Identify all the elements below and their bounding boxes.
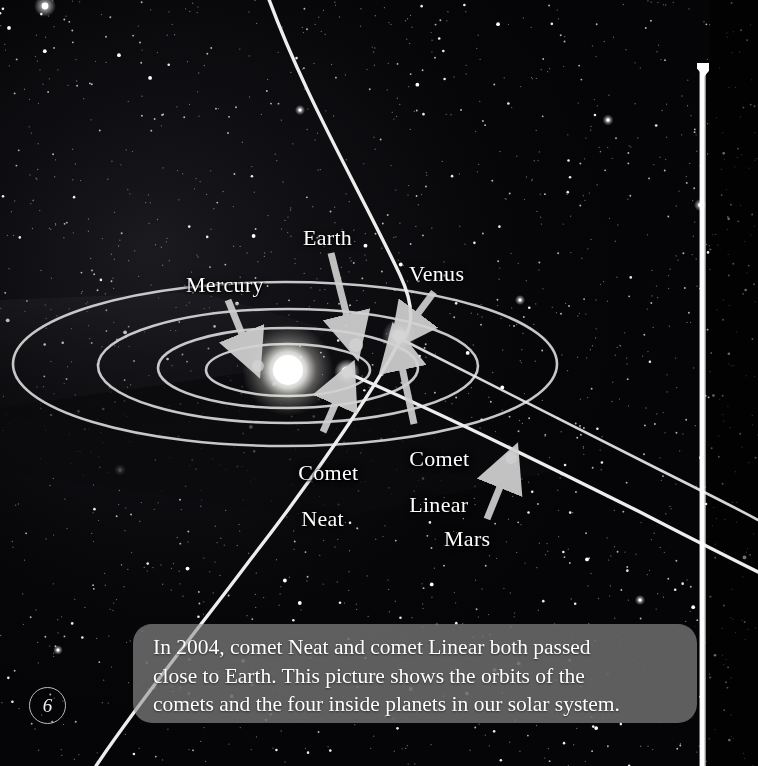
label-comet-linear-line1: Comet bbox=[409, 446, 469, 471]
scan-artifact-strip bbox=[699, 63, 706, 766]
label-comet-linear-line2: Linear bbox=[409, 492, 468, 517]
comet-orbit-upper bbox=[262, 0, 411, 342]
label-comet-linear: Comet Linear bbox=[386, 424, 466, 539]
arrow-earth bbox=[331, 253, 352, 336]
page-number: 6 bbox=[29, 687, 66, 724]
label-mercury: Mercury bbox=[186, 273, 264, 296]
label-comet-neat-line2: Neat bbox=[301, 506, 344, 531]
label-comet-neat-line1: Comet bbox=[298, 460, 358, 485]
planet-mars bbox=[505, 452, 517, 464]
caption-line-2: close to Earth. This picture shows the o… bbox=[153, 662, 679, 691]
planet-venus bbox=[393, 330, 405, 342]
caption-line-1: In 2004, comet Neat and comet Linear bot… bbox=[153, 633, 679, 662]
comet-neat bbox=[342, 367, 353, 378]
caption-box: In 2004, comet Neat and comet Linear bot… bbox=[133, 624, 697, 723]
caption-line-3: comets and the four inside planets in ou… bbox=[153, 690, 679, 719]
label-venus: Venus bbox=[409, 262, 464, 285]
label-earth: Earth bbox=[303, 226, 352, 249]
planet-mercury bbox=[252, 360, 264, 372]
label-comet-neat: Comet Neat bbox=[275, 438, 347, 553]
planet-earth bbox=[349, 338, 363, 352]
book-page: Mercury Earth Venus Mars Comet Neat Come… bbox=[0, 0, 758, 766]
